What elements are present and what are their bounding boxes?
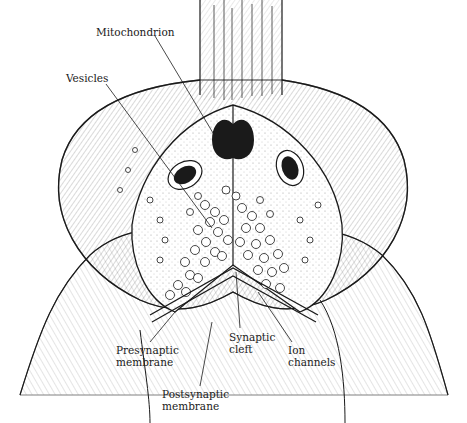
label-ion-channels: Ion channels [288, 344, 335, 368]
synapse-illustration [0, 0, 467, 423]
label-mitochondrion: Mitochondrion [96, 26, 175, 38]
label-postsynaptic-membrane: Postsynaptic membrane [162, 388, 229, 412]
label-presynaptic-membrane: Presynaptic membrane [116, 344, 179, 368]
label-vesicles: Vesicles [66, 72, 108, 84]
label-synaptic-cleft: Synaptic cleft [229, 331, 275, 355]
